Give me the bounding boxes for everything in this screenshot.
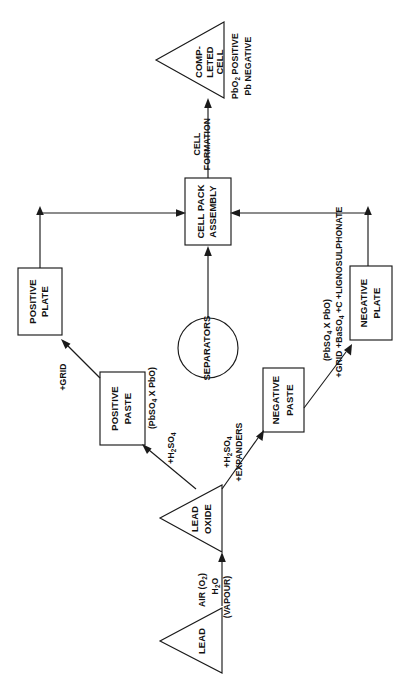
diagram-canvas: COMP- LETED CELL PbO2 POSITIVE Pb NEGATI…	[0, 0, 409, 690]
edge-separators-to-cell-pack	[204, 246, 212, 318]
positive-acid-label: +H2SO4	[166, 432, 176, 464]
negative-acid-label: +H2SO4	[222, 436, 232, 468]
edge-positive-plate-to-cell-pack	[36, 206, 186, 268]
cell-formation-line2: FORMATION	[202, 118, 212, 170]
negative-plate-label-line1: NEGATIVE	[358, 279, 369, 327]
cell-pack-label-line2: ASSEMBLY	[207, 185, 218, 238]
negative-plate-label-line2: PLATE	[371, 288, 382, 319]
pb-negative-label: Pb NEGATIVE	[243, 36, 253, 95]
h2o-label: H2O	[210, 577, 220, 594]
separators-label: SEPARATORS	[201, 315, 212, 380]
positive-paste-label-line1: POSITIVE	[109, 386, 120, 430]
arrowhead-icon	[364, 206, 372, 215]
positive-grid-label: +GRID	[58, 363, 68, 390]
lead-oxide-label-line2: OXIDE	[202, 504, 213, 534]
node-separators[interactable]: SEPARATORS	[178, 315, 238, 380]
triangle-shape	[160, 608, 222, 673]
node-cell-pack-assembly[interactable]: CELL PACK ASSEMBLY	[185, 178, 231, 245]
edge-label-positive-grid: +GRID	[58, 363, 68, 390]
negative-paste-label-line2: PASTE	[284, 384, 295, 415]
lead-oxide-label-line1: LEAD	[189, 506, 200, 532]
positive-plate-label-line2: PLATE	[39, 286, 50, 317]
node-lead[interactable]: LEAD	[160, 608, 222, 673]
completed-cell-side-labels: PbO2 POSITIVE Pb NEGATIVE	[230, 33, 253, 99]
node-completed-cell[interactable]: COMP- LETED CELL	[156, 22, 225, 98]
node-positive-paste[interactable]: POSITIVE PASTE	[100, 372, 145, 445]
arrowhead-icon	[204, 98, 212, 108]
positive-plate-label-line1: POSITIVE	[27, 279, 38, 323]
arrowhead-icon	[204, 246, 212, 256]
edge-label-cell-formation: CELL FORMATION	[192, 118, 212, 170]
flowchart-svg: COMP- LETED CELL PbO2 POSITIVE Pb NEGATI…	[0, 0, 409, 690]
positive-paste-label-line2: PASTE	[122, 393, 133, 424]
node-positive-plate[interactable]: POSITIVE PLATE	[18, 268, 62, 335]
completed-cell-label-line3: CELL	[214, 49, 225, 74]
lead-label: LEAD	[196, 628, 207, 654]
vapour-label: (VAPOUR)	[222, 576, 232, 619]
expanders-label: +EXPANDERS	[234, 422, 244, 481]
negative-paste-label-line1: NEGATIVE	[270, 376, 281, 424]
node-negative-plate[interactable]: NEGATIVE PLATE	[350, 266, 392, 340]
node-negative-paste[interactable]: NEGATIVE PASTE	[263, 368, 304, 432]
edge-label-negative-plate-additives: (PbSO4 X PbO) +GRID +BaSO4 +C +LIGNOSULP…	[322, 206, 344, 377]
node-lead-oxide[interactable]: LEAD OXIDE	[160, 485, 222, 552]
pbo2-positive-label: PbO2 POSITIVE	[230, 33, 240, 99]
edge-label-positive-paste-formula: (PbSO4 X PbO)	[147, 367, 157, 429]
edge-label-positive-acid: +H2SO4	[166, 432, 176, 464]
arrowhead-icon	[218, 552, 226, 562]
negative-paste-formula-label: (PbSO4 X PbO)	[322, 299, 332, 361]
cell-pack-label-line1: CELL PACK	[195, 184, 206, 238]
positive-paste-formula-label: (PbSO4 X PbO)	[147, 367, 157, 429]
edge-negative-plate-to-cell-pack	[230, 206, 372, 266]
completed-cell-label-line1: COMP-	[193, 46, 204, 78]
negative-grid-additives-label: +GRID +BaSO4 +C +LIGNOSULPHONATE	[334, 206, 344, 377]
arrowhead-icon	[36, 206, 44, 215]
cell-formation-line1: CELL	[192, 133, 202, 156]
air-o2-label: AIR (O2)	[197, 573, 207, 607]
